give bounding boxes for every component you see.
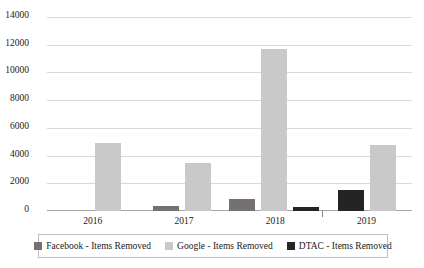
- y-axis-tick-label: 0: [0, 205, 29, 215]
- x-axis-labels: 2016201720182019: [47, 213, 412, 229]
- bar-group-2019: [322, 17, 412, 211]
- legend-item-facebook[interactable]: Facebook - Items Removed: [34, 241, 151, 251]
- bar-slot: [338, 17, 364, 211]
- bar-facebook-2018: [229, 199, 255, 211]
- bar-slot: [153, 17, 179, 211]
- bar-google-2019: [370, 145, 396, 212]
- x-axis-label-2017: 2017: [138, 213, 229, 229]
- legend-item-google[interactable]: Google - Items Removed: [165, 241, 273, 251]
- y-axis-tick-label: 12000: [0, 39, 29, 49]
- legend-item-dtac[interactable]: DTAC - Items Removed: [287, 241, 392, 251]
- bar-slot: [293, 17, 319, 211]
- y-axis-tick-label: 6000: [0, 122, 29, 132]
- legend-label: Google - Items Removed: [177, 241, 273, 251]
- x-axis-label-2019: 2019: [321, 213, 412, 229]
- y-axis-tick-label: 8000: [0, 94, 29, 104]
- bar-slot: [261, 17, 287, 211]
- x-axis-label-2016: 2016: [47, 213, 138, 229]
- bar-dtac-2019: [338, 190, 364, 211]
- legend-swatch-facebook-icon: [34, 242, 42, 250]
- bar-facebook-2017: [153, 206, 179, 211]
- y-axis-tick-label: 4000: [0, 150, 29, 160]
- legend-swatch-dtac-icon: [287, 242, 295, 250]
- bar-slot: [185, 17, 211, 211]
- x-axis-label-2018: 2018: [230, 213, 321, 229]
- legend-label: DTAC - Items Removed: [299, 241, 392, 251]
- plot-area: 14000120001000080006000400020000: [47, 17, 412, 211]
- legend-label: Facebook - Items Removed: [46, 241, 151, 251]
- bar-groups: [47, 17, 412, 211]
- bar-group-2018: [226, 17, 322, 211]
- bar-google-2016: [95, 143, 121, 211]
- y-axis-tick-label: 10000: [0, 66, 29, 76]
- bar-dtac-2018: [293, 207, 319, 211]
- bar-slot: [229, 17, 255, 211]
- legend-swatch-google-icon: [165, 242, 173, 250]
- bar-google-2018: [261, 49, 287, 211]
- bar-google-2017: [185, 163, 211, 211]
- bar-slot: [370, 17, 396, 211]
- bar-slot: [95, 17, 121, 211]
- chart-legend: Facebook - Items RemovedGoogle - Items R…: [38, 234, 388, 258]
- bar-chart: 14000120001000080006000400020000 2016201…: [0, 0, 424, 268]
- y-axis-tick-label: 14000: [0, 11, 29, 21]
- y-axis-tick-label: 2000: [0, 177, 29, 187]
- bar-slot: [63, 17, 89, 211]
- bar-group-2016: [47, 17, 137, 211]
- bar-group-2017: [137, 17, 227, 211]
